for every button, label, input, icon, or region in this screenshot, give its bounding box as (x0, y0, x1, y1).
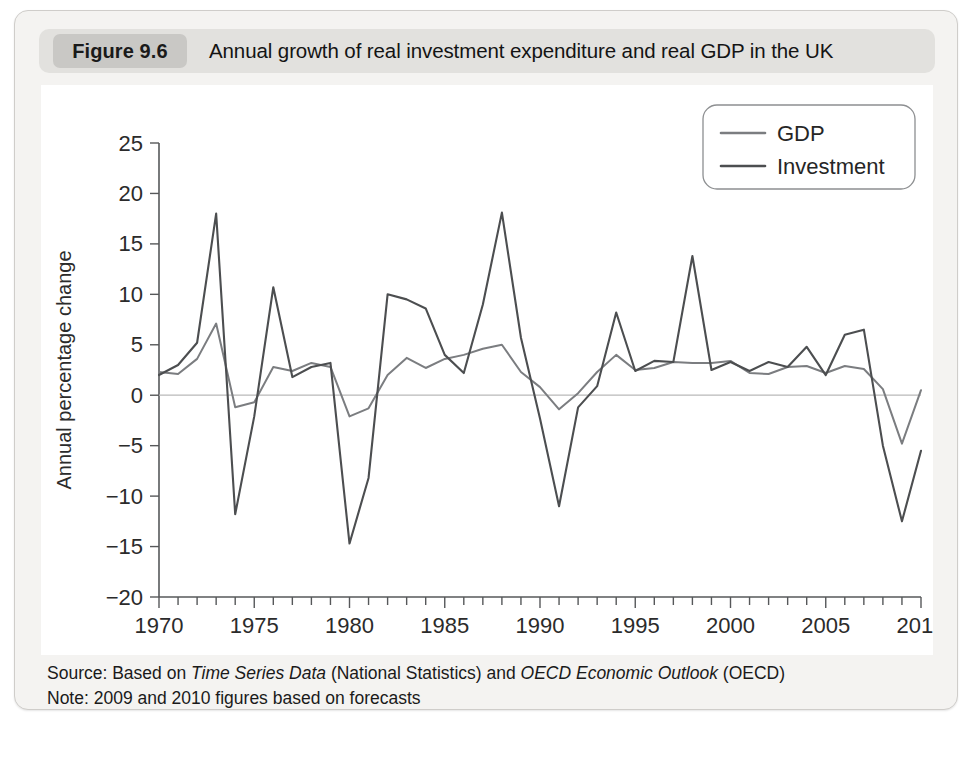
y-axis-label-text: Annual percentage change (53, 250, 75, 489)
y-tick-label: −20 (106, 585, 143, 610)
source-publication-2: OECD Economic Outlook (521, 663, 718, 683)
x-tick-label: 2010 (897, 613, 933, 638)
note-line: Note: 2009 and 2010 figures based on for… (47, 686, 937, 711)
figure-number-badge: Figure 9.6 (53, 34, 187, 68)
y-tick-label: 15 (119, 231, 143, 256)
x-tick-label: 1985 (420, 613, 469, 638)
x-tick-label: 1970 (135, 613, 184, 638)
figure-panel: Figure 9.6 Annual growth of real investm… (14, 10, 958, 710)
line-chart: 2520151050−5−10−15−20 197019751980198519… (41, 85, 933, 655)
y-axis-title: Annual percentage change (53, 250, 75, 489)
series-lines (159, 213, 921, 544)
x-tick-label: 2005 (801, 613, 850, 638)
source-line: Source: Based on Time Series Data (Natio… (47, 661, 937, 686)
figure-title: Annual growth of real investment expendi… (209, 39, 833, 63)
series-line-investment (159, 213, 921, 544)
x-tick-label: 1975 (230, 613, 279, 638)
x-tick-label: 2000 (706, 613, 755, 638)
source-publication-1: Time Series Data (191, 663, 326, 683)
y-tick-label: 20 (119, 181, 143, 206)
series-line-gdp (159, 324, 921, 444)
x-axis: 197019751980198519901995200020052010 (135, 597, 933, 638)
chart-area: 2520151050−5−10−15−20 197019751980198519… (41, 85, 933, 655)
legend-label-investment[interactable]: Investment (777, 154, 885, 179)
source-prefix: Source: Based on (47, 663, 191, 683)
y-tick-label: 0 (131, 383, 143, 408)
x-tick-label: 1995 (611, 613, 660, 638)
y-tick-label: 25 (119, 131, 143, 156)
y-tick-label: −15 (106, 534, 143, 559)
source-middle: (National Statistics) and (326, 663, 521, 683)
x-tick-label: 1980 (325, 613, 374, 638)
x-tick-label: 1990 (516, 613, 565, 638)
legend-label-gdp[interactable]: GDP (777, 121, 825, 146)
source-suffix: (OECD) (718, 663, 785, 683)
figure-footnotes: Source: Based on Time Series Data (Natio… (47, 661, 937, 711)
y-axis: 2520151050−5−10−15−20 (106, 131, 159, 610)
y-tick-label: −5 (118, 433, 143, 458)
y-tick-label: 5 (131, 332, 143, 357)
y-tick-label: 10 (119, 282, 143, 307)
y-tick-label: −10 (106, 484, 143, 509)
chart-legend[interactable]: GDPInvestment (703, 105, 915, 189)
figure-header-bar: Figure 9.6 Annual growth of real investm… (39, 29, 935, 73)
